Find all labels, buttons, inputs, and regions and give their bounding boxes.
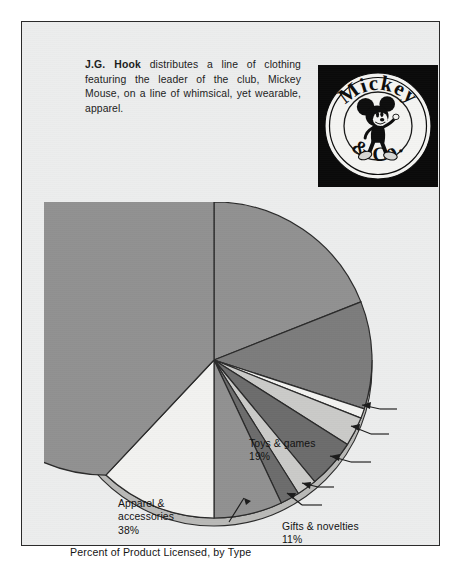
label-apparel-accessories: Apparel & accessories 38% bbox=[118, 497, 174, 537]
chart-caption: Percent of Product Licensed, by Type bbox=[70, 546, 251, 558]
pie-chart: Toys & games 19% Apparel & accessories 3… bbox=[44, 202, 461, 547]
label-toys-games-value: 19% bbox=[249, 450, 315, 463]
brand-name: J.G. Hook bbox=[85, 59, 141, 70]
label-toys-games: Toys & games 19% bbox=[249, 437, 315, 464]
figure-frame: J.G. Hook distributes a line of clothing… bbox=[21, 21, 440, 546]
label-gifts-novelties: Gifts & novelties 11% bbox=[282, 520, 359, 547]
pie-slices bbox=[44, 202, 372, 518]
label-gifts-value: 11% bbox=[282, 533, 359, 546]
mickey-and-co-logo: Mickey & Co. bbox=[318, 65, 438, 187]
label-toys-games-name: Toys & games bbox=[249, 437, 315, 450]
label-gifts-name: Gifts & novelties bbox=[282, 520, 359, 533]
page-root: J.G. Hook distributes a line of clothing… bbox=[0, 0, 461, 574]
label-apparel-value: 38% bbox=[118, 524, 174, 537]
logo-artwork-icon: Mickey & Co. bbox=[318, 65, 438, 187]
intro-paragraph: J.G. Hook distributes a line of clothing… bbox=[85, 58, 301, 116]
label-apparel-name-1: Apparel & bbox=[118, 497, 174, 510]
label-apparel-name-2: accessories bbox=[118, 510, 174, 523]
pie-chart-svg bbox=[44, 202, 461, 547]
